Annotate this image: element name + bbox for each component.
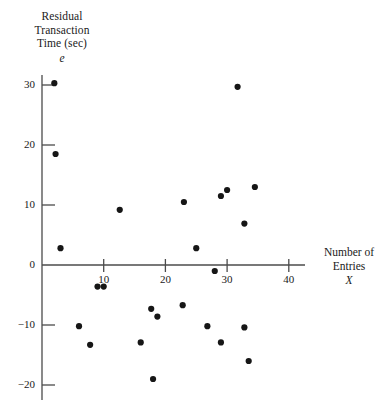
scatter-point: [246, 358, 252, 364]
scatter-point: [218, 339, 224, 345]
residual-scatter-plot: Residual Transaction Time (sec) e Number…: [0, 0, 389, 417]
x-tick-label: 20: [150, 274, 180, 285]
scatter-point: [148, 306, 154, 312]
tick-marks-group: [42, 85, 289, 385]
data-points-group: [51, 80, 258, 382]
y-tick-label: −20: [5, 379, 35, 390]
x-tick-label: 30: [212, 274, 242, 285]
scatter-point: [234, 84, 240, 90]
y-axis-label: Residual Transaction Time (sec) e: [14, 10, 110, 65]
scatter-point: [241, 324, 247, 330]
y-axis-label-line-1: Residual: [14, 10, 110, 24]
scatter-point: [154, 314, 160, 320]
scatter-point: [51, 80, 57, 86]
axes-group: [42, 75, 305, 400]
y-tick-label: 30: [5, 79, 35, 90]
scatter-point: [224, 187, 230, 193]
scatter-point: [76, 323, 82, 329]
y-tick-label: 20: [5, 139, 35, 150]
scatter-point: [204, 323, 210, 329]
y-tick-label: −10: [5, 319, 35, 330]
scatter-point: [193, 245, 199, 251]
scatter-point: [218, 193, 224, 199]
x-axis-label: Number of Entries X: [312, 246, 386, 288]
y-tick-label: 10: [5, 199, 35, 210]
x-tick-label: 10: [89, 274, 119, 285]
scatter-point: [150, 376, 156, 382]
x-axis-symbol: X: [312, 274, 386, 288]
scatter-point: [117, 207, 123, 213]
y-axis-symbol: e: [14, 52, 110, 66]
scatter-point: [252, 184, 258, 190]
scatter-point: [180, 302, 186, 308]
y-axis-label-line-3: Time (sec): [14, 37, 110, 51]
y-tick-label: 0: [5, 259, 35, 270]
x-axis-label-line-1: Number of: [312, 246, 386, 260]
scatter-point: [57, 245, 63, 251]
scatter-point: [138, 339, 144, 345]
scatter-point: [87, 342, 93, 348]
scatter-point: [241, 221, 247, 227]
x-axis-label-line-2: Entries: [312, 260, 386, 274]
y-axis-label-line-2: Transaction: [14, 24, 110, 38]
scatter-point: [52, 151, 58, 157]
scatter-point: [181, 199, 187, 205]
x-tick-label: 40: [274, 274, 304, 285]
